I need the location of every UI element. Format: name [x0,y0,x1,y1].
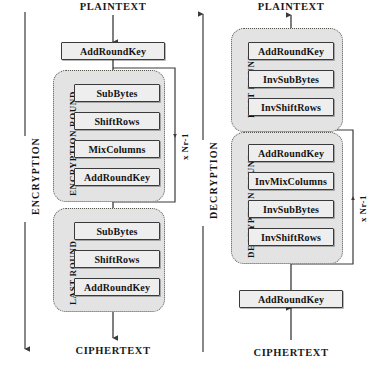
encryption-initial-addroundkey-box[interactable]: AddRoundKey [61,42,165,60]
decryption-output-label: PLAINTEXT [241,1,341,12]
encryption-last-round-step-addroundkey[interactable]: AddRoundKey [74,278,160,296]
encryption-round-step-subbytes[interactable]: SubBytes [74,84,160,102]
decryption-round-step-invshiftrows[interactable]: InvShiftRows [248,228,334,246]
decryption-round-step-invsubbytes[interactable]: InvSubBytes [248,200,334,218]
encryption-round-step-shiftrows[interactable]: ShiftRows [74,112,160,130]
encryption-last-round-step-shiftrows[interactable]: ShiftRows [74,250,160,268]
decryption-last-round-step-invsubbytes[interactable]: InvSubBytes [248,70,334,88]
aes-flowchart-diagram: ENCRYPTION PLAINTEXT AddRoundKey ENCRYPT… [0,0,382,367]
encryption-output-label: CIPHERTEXT [63,345,163,356]
decryption-initial-addroundkey-box[interactable]: AddRoundKey [239,290,343,308]
decryption-round-loop-label: x Nr-1 [358,195,368,222]
decryption-input-label: CIPHERTEXT [241,347,341,358]
decryption-last-round-step-addroundkey[interactable]: AddRoundKey [248,42,334,60]
encryption-round-step-mixcolumns[interactable]: MixColumns [74,140,160,158]
decryption-round-step-invmixcolumns[interactable]: InvMixColumns [248,172,334,190]
decryption-last-round-step-invshiftrows[interactable]: InvShiftRows [248,98,334,116]
encryption-input-label: PLAINTEXT [63,1,163,12]
encryption-last-round-step-subbytes[interactable]: SubBytes [74,222,160,240]
encryption-round-loop-label: x Nr-1 [180,133,190,160]
encryption-stage-label: ENCRYPTION [30,137,41,215]
decryption-round-step-addroundkey[interactable]: AddRoundKey [248,144,334,162]
decryption-stage-label: DECRYPTION [208,141,219,219]
encryption-round-step-addroundkey[interactable]: AddRoundKey [74,168,160,186]
